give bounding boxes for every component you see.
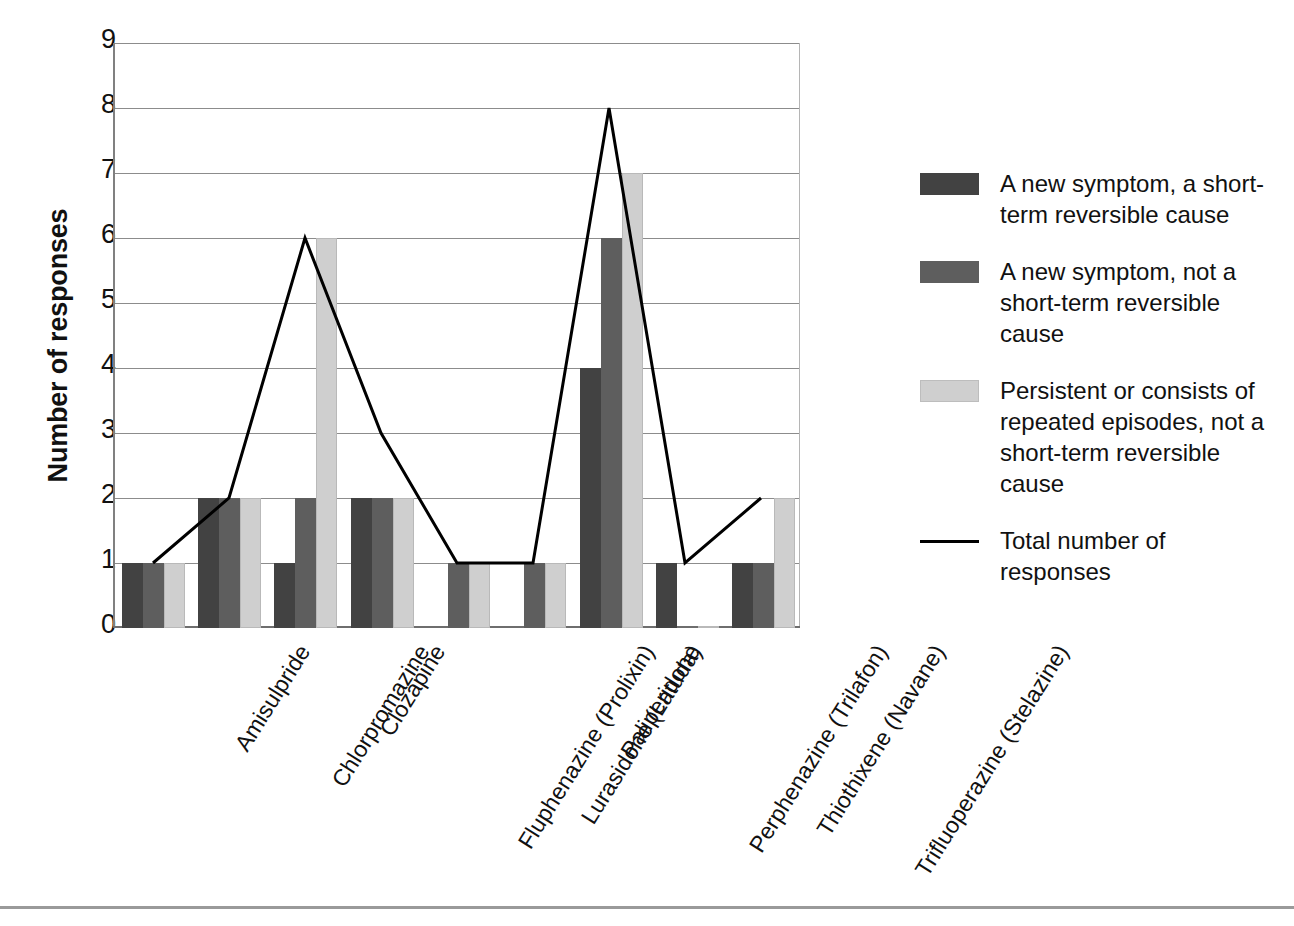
bar-group: [268, 43, 344, 628]
bar: [774, 498, 795, 628]
bar: [448, 563, 469, 628]
bar: [295, 498, 316, 628]
bar: [524, 563, 545, 628]
legend-item[interactable]: A new symptom, a short-term reversible c…: [920, 168, 1270, 230]
y-axis-tick-label: 3: [56, 414, 116, 445]
bar-group: [420, 43, 496, 628]
y-axis-tick-label: 0: [56, 609, 116, 640]
legend-item[interactable]: Persistent or consists of repeated episo…: [920, 375, 1270, 499]
bar: [545, 563, 566, 628]
dark-gray-swatch: [920, 173, 979, 195]
y-axis-tick-label: 7: [56, 154, 116, 185]
bar: [122, 563, 143, 628]
bar: [698, 626, 719, 628]
bar: [393, 498, 414, 628]
bar: [656, 563, 677, 628]
bar: [601, 238, 622, 628]
bar-group: [344, 43, 420, 628]
bar: [143, 563, 164, 628]
light-gray-swatch: [920, 380, 979, 402]
legend-item-label: A new symptom, not a short-term reversib…: [1000, 256, 1268, 349]
chart-figure: Number of responses 0123456789 Amisulpri…: [0, 0, 1294, 926]
bar-group: [573, 43, 649, 628]
bar: [372, 498, 393, 628]
bar: [732, 563, 753, 628]
y-axis-tick-label: 9: [56, 24, 116, 55]
bar: [164, 563, 185, 628]
bar-group: [191, 43, 267, 628]
bar: [240, 498, 261, 628]
bar-group: [726, 43, 802, 628]
chart-legend: A new symptom, a short-term reversible c…: [920, 168, 1270, 613]
y-axis-tick-label: 8: [56, 89, 116, 120]
bar: [274, 563, 295, 628]
x-axis-category-labels: AmisulprideChlorpromazineClozapineFluphe…: [113, 632, 800, 882]
legend-item[interactable]: Total number of responses: [920, 525, 1270, 587]
bar: [580, 368, 601, 628]
y-axis-tick-label: 4: [56, 349, 116, 380]
legend-item-label: Total number of responses: [1000, 525, 1268, 587]
plot-area: [113, 43, 800, 628]
legend-item[interactable]: A new symptom, not a short-term reversib…: [920, 256, 1270, 349]
bar-group: [649, 43, 725, 628]
x-axis-category-label: Amisulpride: [230, 640, 317, 756]
bar-group: [497, 43, 573, 628]
bar: [469, 563, 490, 628]
legend-item-label: Persistent or consists of repeated episo…: [1000, 375, 1268, 499]
bar: [198, 498, 219, 628]
footer-divider: [0, 906, 1294, 909]
bar: [753, 563, 774, 628]
bar: [351, 498, 372, 628]
bar: [622, 173, 643, 628]
black-line-swatch: [920, 530, 979, 552]
bar-group: [115, 43, 191, 628]
legend-item-label: A new symptom, a short-term reversible c…: [1000, 168, 1268, 230]
bar: [316, 238, 337, 628]
medium-gray-swatch: [920, 261, 979, 283]
y-axis-tick-label: 5: [56, 284, 116, 315]
y-axis-tick-label: 2: [56, 479, 116, 510]
y-axis-tick-label: 6: [56, 219, 116, 250]
y-axis-tick-label: 1: [56, 544, 116, 575]
bar-groups: [115, 43, 799, 628]
bar: [219, 498, 240, 628]
